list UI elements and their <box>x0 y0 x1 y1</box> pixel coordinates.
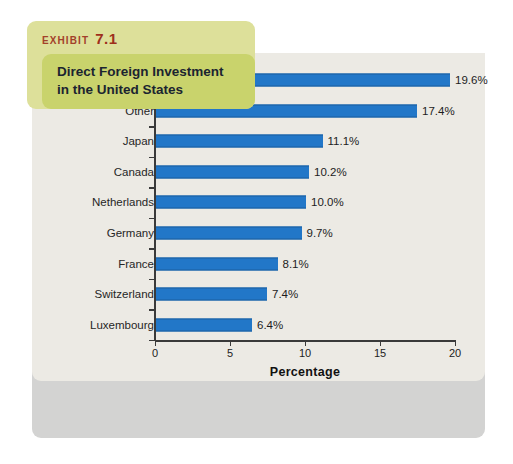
y-axis-tick <box>149 126 155 127</box>
exhibit-title-line-1: Direct Foreign Investment <box>57 63 257 81</box>
bar-row: Japan11.1% <box>32 126 485 157</box>
exhibit-eyebrow-word: EXHIBIT <box>42 35 89 46</box>
bar-row: Netherlands10.0% <box>32 187 485 218</box>
x-axis-tick-label: 5 <box>227 347 233 359</box>
bar <box>156 227 302 240</box>
bar-category-label: Netherlands <box>92 196 154 208</box>
exhibit-header-banner: EXHIBIT7.1 Direct Foreign Investment in … <box>27 21 255 109</box>
exhibit-eyebrow-number: 7.1 <box>95 30 117 47</box>
y-axis-tick <box>149 187 155 188</box>
y-axis-tick <box>149 309 155 310</box>
bar-row: Luxembourg6.4% <box>32 309 485 340</box>
bar-value-label: 10.2% <box>314 166 347 178</box>
x-axis-tick <box>155 340 156 346</box>
bar <box>156 318 252 331</box>
bar-value-label: 17.4% <box>422 105 455 117</box>
bar-category-label: Luxembourg <box>90 319 154 331</box>
bar-category-label: Germany <box>107 227 154 239</box>
bar-category-label: Canada <box>114 166 154 178</box>
bar-value-label: 11.1% <box>328 135 360 147</box>
y-axis-tick <box>149 248 155 249</box>
bar-category-label: Japan <box>123 135 154 147</box>
bar <box>156 288 267 301</box>
bar <box>156 257 278 270</box>
x-axis-tick-label: 10 <box>299 347 311 359</box>
y-axis-tick <box>149 218 155 219</box>
x-axis-title: Percentage <box>155 365 455 379</box>
bar <box>156 165 309 178</box>
bar-value-label: 10.0% <box>311 196 344 208</box>
x-axis-tick-label: 20 <box>449 347 461 359</box>
y-axis-tick <box>149 157 155 158</box>
exhibit-card: Percentage United Kingdom19.6%Other17.4%… <box>32 53 485 438</box>
bar-category-label: France <box>118 258 154 270</box>
exhibit-title: Direct Foreign Investment in the United … <box>57 63 257 99</box>
bar-value-label: 19.6% <box>455 74 488 86</box>
bar <box>156 135 323 148</box>
bar-value-label: 6.4% <box>257 319 283 331</box>
bar <box>156 196 306 209</box>
exhibit-title-line-2: in the United States <box>57 81 257 99</box>
bar-row: Canada10.2% <box>32 157 485 188</box>
x-axis-tick-label: 0 <box>152 347 158 359</box>
bar-value-label: 7.4% <box>272 288 298 300</box>
bar-value-label: 8.1% <box>283 258 309 270</box>
x-axis-tick-label: 15 <box>374 347 386 359</box>
x-axis-tick <box>380 340 381 346</box>
exhibit-eyebrow: EXHIBIT7.1 <box>42 30 118 48</box>
x-axis-tick <box>305 340 306 346</box>
bar-row: Switzerland7.4% <box>32 279 485 310</box>
y-axis-tick <box>149 279 155 280</box>
x-axis-tick <box>230 340 231 346</box>
x-axis-tick <box>455 340 456 346</box>
bar-value-label: 9.7% <box>307 227 333 239</box>
bar-row: France8.1% <box>32 248 485 279</box>
bar-row: Germany9.7% <box>32 218 485 249</box>
bar-category-label: Switzerland <box>95 288 154 300</box>
